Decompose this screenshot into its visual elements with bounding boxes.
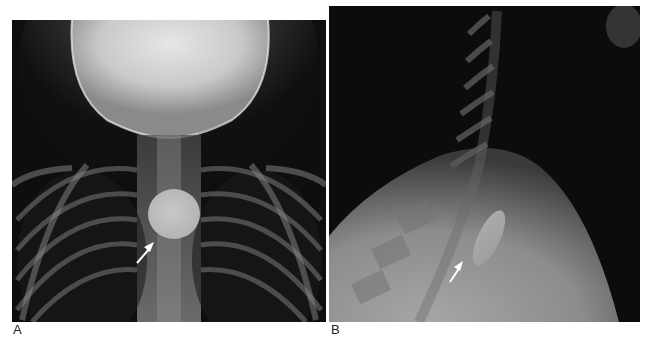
xray-panel-a <box>12 20 326 322</box>
panel-label-a: A <box>13 323 22 336</box>
panel-label-b: B <box>331 323 340 336</box>
xray-panel-b <box>329 6 640 322</box>
xray-frontal-image <box>12 20 326 322</box>
xray-lateral-image <box>329 6 640 322</box>
